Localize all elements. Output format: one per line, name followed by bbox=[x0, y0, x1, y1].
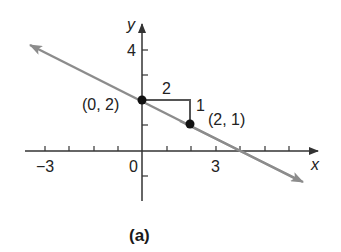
slope-triangle bbox=[142, 100, 190, 124]
tick-label-0: 0 bbox=[129, 158, 138, 175]
point-label-2-1: (2, 1) bbox=[208, 111, 245, 128]
point-0-2 bbox=[138, 96, 147, 105]
point-label-0-2: (0, 2) bbox=[82, 96, 119, 113]
tick-label-3: 3 bbox=[211, 158, 220, 175]
tick-label-neg3: −3 bbox=[36, 158, 54, 175]
y-axis-ticks bbox=[142, 50, 148, 176]
figure-caption: (a) bbox=[129, 226, 150, 245]
point-2-1 bbox=[186, 120, 195, 129]
y-axis-label: y bbox=[126, 16, 136, 33]
rise-label: 1 bbox=[196, 97, 205, 114]
run-label: 2 bbox=[162, 80, 171, 97]
x-axis-label: x bbox=[310, 156, 320, 173]
tick-label-4: 4 bbox=[127, 42, 136, 59]
coordinate-plane: y x 4 −3 0 3 (0, 2) (2, 1) 2 1 (a) bbox=[0, 0, 341, 252]
